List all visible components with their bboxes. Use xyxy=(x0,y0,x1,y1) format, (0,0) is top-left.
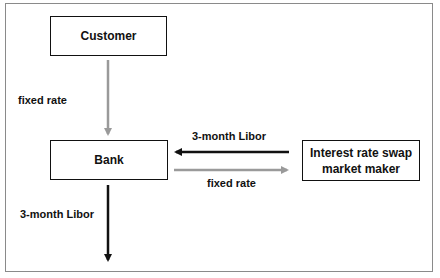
market-maker-node: Interest rate swap market maker xyxy=(302,140,420,181)
bank-node: Bank xyxy=(50,140,168,180)
market-maker-label-line2: market maker xyxy=(322,161,400,177)
customer-label: Customer xyxy=(80,28,136,44)
bank-out-label: 3-month Libor xyxy=(20,208,94,220)
mm-to-bank-label: 3-month Libor xyxy=(192,130,266,142)
bank-label: Bank xyxy=(94,152,123,168)
customer-node: Customer xyxy=(50,16,167,56)
bank-to-mm-label: fixed rate xyxy=(207,177,256,189)
customer-to-bank-label: fixed rate xyxy=(18,94,67,106)
market-maker-label-line1: Interest rate swap xyxy=(310,145,412,161)
